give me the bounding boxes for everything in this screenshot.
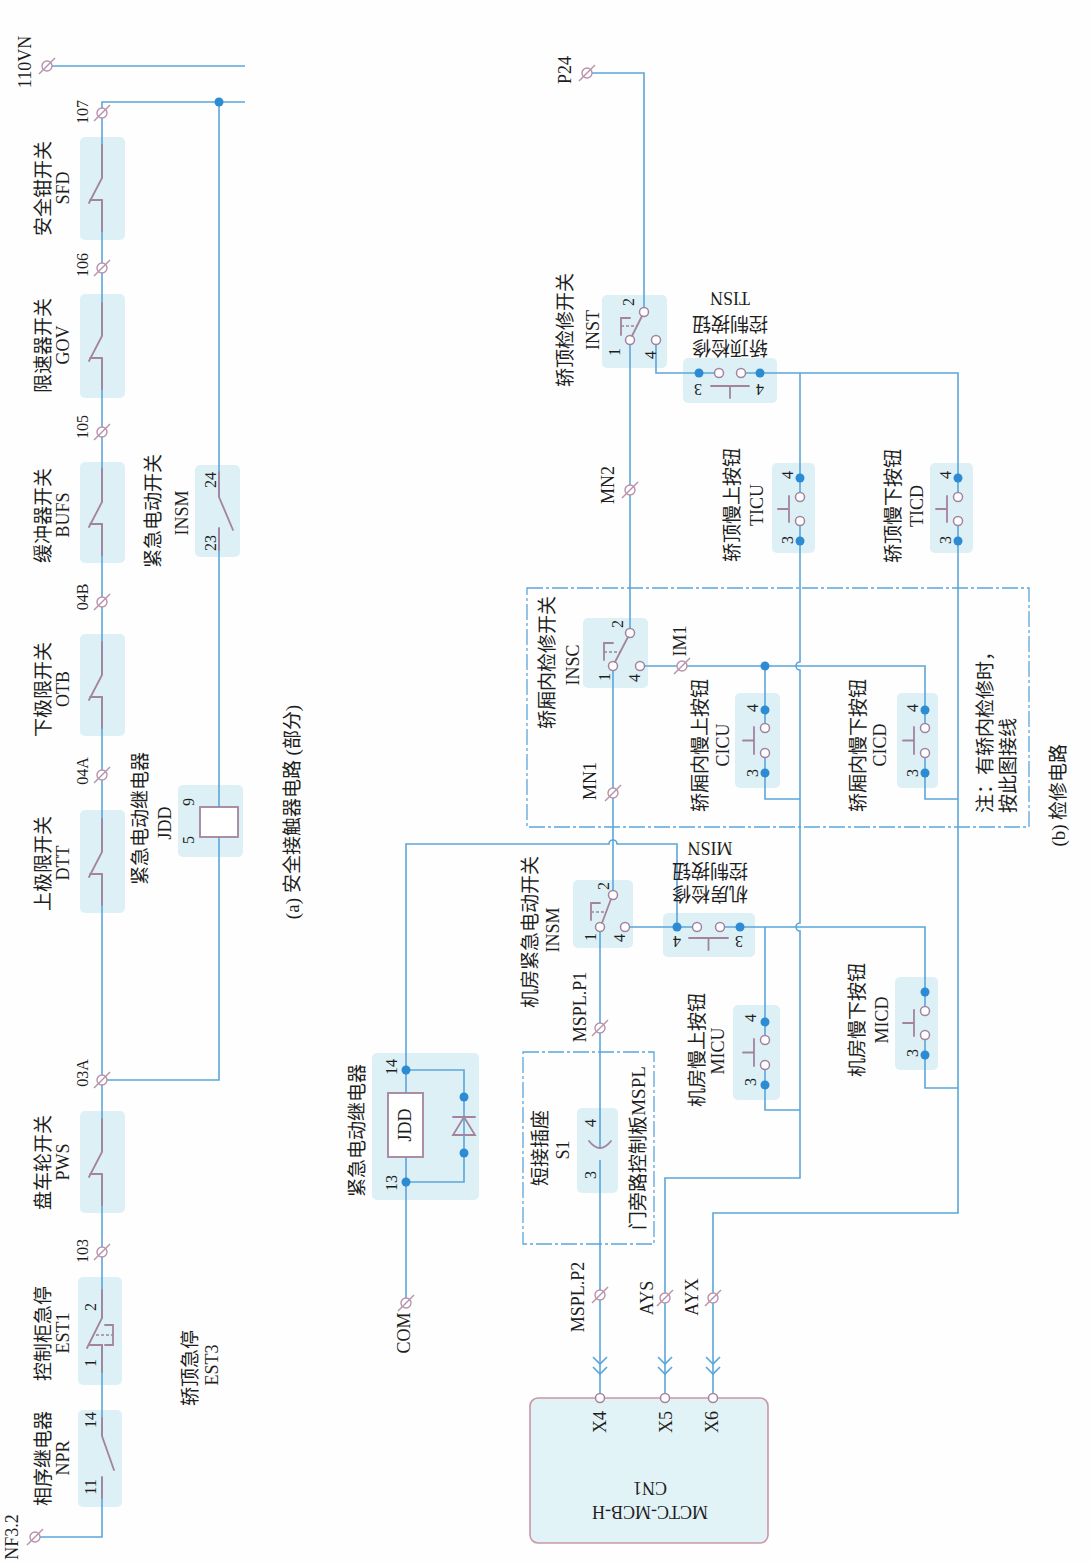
npr-name: 相序继电器 <box>33 1411 54 1506</box>
terminal-105-label: 105 <box>74 415 91 439</box>
terminal-110vn-label: 110VN <box>15 36 35 88</box>
insm-b-pin-4: 4 <box>611 934 628 942</box>
s1-name: 短接插座 <box>530 1110 551 1186</box>
terminal-105-icon <box>94 424 110 440</box>
pws-code: PWS <box>53 1143 73 1180</box>
cicd-pin-4: 4 <box>904 704 921 712</box>
cicd-pin-3: 3 <box>904 769 921 777</box>
inst-pin-1: 1 <box>606 348 623 356</box>
micd-code: MICD <box>872 996 892 1043</box>
s1-code: S1 <box>553 1140 573 1159</box>
est3-name: 轿顶急停 <box>180 1330 201 1406</box>
terminal-04a-label: 04A <box>74 757 91 785</box>
micd-pin-3: 3 <box>904 1049 921 1057</box>
inspection-note-line1: 注：有轿内检修时， <box>975 642 996 813</box>
s1-pin-4: 4 <box>582 1119 599 1127</box>
npr-pin-11: 11 <box>82 1479 99 1494</box>
micu-pin-3: 3 <box>742 1078 759 1086</box>
sfd-name: 安全钳开关 <box>33 141 54 236</box>
insc-pin-4: 4 <box>626 674 643 682</box>
terminal-mspl-p1-icon <box>592 1020 608 1036</box>
controller-model: MCTC-MCB-H <box>592 1502 708 1522</box>
micd-name: 机房慢下按钮 <box>847 963 868 1077</box>
est1-name: 控制柜急停 <box>33 1286 54 1381</box>
terminal-im1-label: IM1 <box>670 626 690 657</box>
cicd-name: 轿厢内慢下按钮 <box>848 679 869 812</box>
jdd-a-code: JDD <box>155 806 175 839</box>
insm-b-pin-1: 1 <box>582 933 599 941</box>
terminal-107-icon <box>94 105 110 121</box>
terminal-ays-icon <box>657 1290 673 1306</box>
micu-code: MICU <box>708 1027 728 1074</box>
dtt-name: 上极限开关 <box>33 816 54 911</box>
bufs-code: BUFS <box>53 492 73 537</box>
insm-a-pin-23: 23 <box>202 535 219 551</box>
terminal-04b-label: 04B <box>74 584 91 611</box>
terminal-04b-icon <box>94 594 110 610</box>
insc-pin-1: 1 <box>596 673 613 681</box>
terminal-ayx-label: AYX <box>682 1278 702 1315</box>
cicd-code: CICD <box>870 723 890 766</box>
jdd-b-code: JDD <box>395 1108 415 1141</box>
terminal-p24-label: P24 <box>555 56 575 84</box>
insm-a-pin-24: 24 <box>202 472 219 488</box>
jdd-a-pin-5: 5 <box>180 836 197 844</box>
ticu-name: 轿顶慢上按钮 <box>722 448 743 562</box>
ticd-code: TICD <box>907 485 927 527</box>
s1-pin-3: 3 <box>582 1171 599 1179</box>
safety-contactor-circuit: 110VN 107 106 105 04B 04A 03A 103 NF3.2 … <box>2 36 304 1560</box>
ticd-pin-3: 3 <box>937 536 954 544</box>
terminal-106-label: 106 <box>74 253 91 277</box>
est1-pin-2: 2 <box>82 1303 99 1311</box>
terminal-110vn-icon <box>39 58 55 74</box>
insm-a-name: 紧急电动开关 <box>143 454 164 568</box>
misn-name-line1: 机房检修 <box>672 883 748 904</box>
terminal-im1-icon <box>674 658 690 674</box>
cicu-name: 轿厢内慢上按钮 <box>690 679 711 812</box>
terminal-p24-icon <box>579 65 595 81</box>
jdd-b-pin-14: 14 <box>383 1059 400 1075</box>
insm-b-name: 机房紧急电动开关 <box>520 856 541 1008</box>
terminal-ayx-icon <box>705 1290 721 1306</box>
terminal-mspl-p2-icon <box>592 1287 608 1303</box>
est1-pin-1: 1 <box>82 1359 99 1367</box>
inspection-circuit: X4 X5 X6 MCTC-MCB-H CN1 P24 MN2 IM1 MN1 … <box>347 56 1070 1543</box>
tisn-pin-4: 4 <box>756 381 764 398</box>
jdd-coil-icon <box>200 807 238 837</box>
terminal-03a-label: 03A <box>74 1059 91 1087</box>
insc-pin-2: 2 <box>609 620 626 628</box>
npr-pin-14: 14 <box>82 1412 99 1428</box>
tisn-pin-3: 3 <box>694 381 702 398</box>
insm-b-code: INSM <box>543 907 563 952</box>
terminal-mn1-icon <box>605 785 621 801</box>
ticu-pin-4: 4 <box>779 471 796 479</box>
bufs-name: 缓冲器开关 <box>33 468 54 563</box>
est1-code: EST1 <box>53 1312 73 1353</box>
otb-code: OTB <box>53 671 73 707</box>
cicu-pin-4: 4 <box>744 704 761 712</box>
schematic-page: 110VN 107 106 105 04B 04A 03A 103 NF3.2 … <box>0 0 1090 1565</box>
pin-x6-icon <box>709 1394 718 1403</box>
terminal-106-icon <box>94 260 110 276</box>
ticu-pin-3: 3 <box>779 536 796 544</box>
caption-part-b: (b) 检修电路 <box>1048 744 1070 847</box>
inst-name: 轿顶检修开关 <box>555 273 576 387</box>
cicu-pin-3: 3 <box>744 769 761 777</box>
jdd-a-name: 紧急电动继电器 <box>130 752 151 885</box>
caption-part-a: (a) 安全接触器电路 (部分) <box>282 705 304 919</box>
sfd-code: SFD <box>53 171 73 204</box>
insm-a-code: INSM <box>172 490 192 535</box>
insc-code: INSC <box>563 644 583 685</box>
est1-box <box>78 1277 122 1385</box>
ticd-name: 轿顶慢下按钮 <box>883 449 904 563</box>
tisn-name-line1: 轿顶检修 <box>692 337 768 358</box>
terminal-107-label: 107 <box>74 100 91 124</box>
gov-name: 限速器开关 <box>33 298 54 393</box>
tisn-code: TISN <box>710 288 750 308</box>
junction-dot <box>215 98 224 107</box>
terminal-mn1-label: MN1 <box>580 762 600 800</box>
terminal-nf32-label: NF3.2 <box>2 1514 22 1560</box>
terminal-103-label: 103 <box>74 1239 91 1263</box>
micu-name: 机房慢上按钮 <box>687 993 708 1107</box>
gov-code: GOV <box>53 326 73 365</box>
